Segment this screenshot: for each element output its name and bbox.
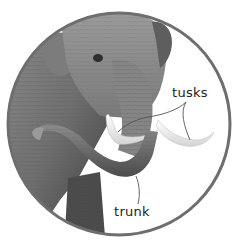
label-tusks: tusks <box>172 86 208 99</box>
label-trunk: trunk <box>114 205 150 218</box>
elephant-diagram: tusks trunk <box>0 0 235 249</box>
